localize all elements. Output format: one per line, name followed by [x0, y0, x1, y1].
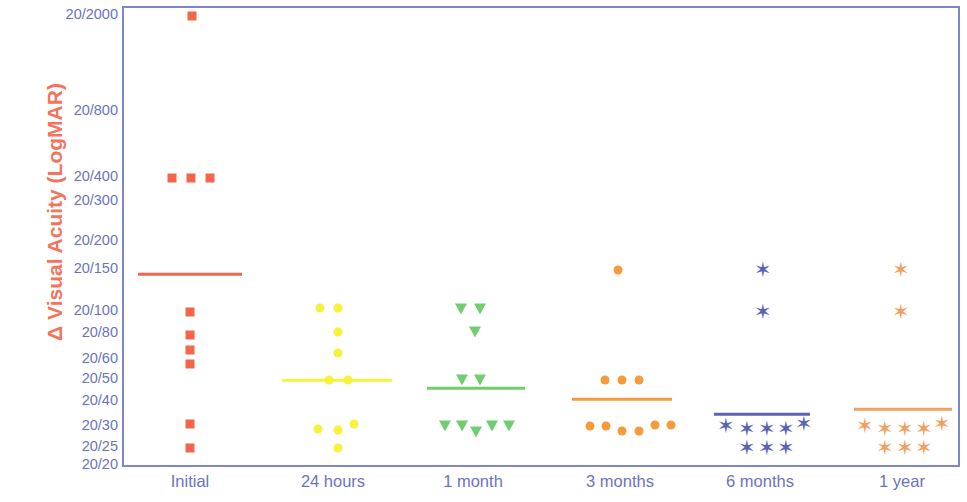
data-point: [455, 304, 467, 315]
x-axis-tick-labels: Initial24 hours1 month3 months6 months1 …: [122, 472, 960, 502]
data-point: ✶: [892, 262, 908, 278]
data-point: [618, 376, 627, 385]
data-point: [635, 376, 644, 385]
data-point: ✶: [795, 416, 811, 432]
data-point: [186, 331, 195, 340]
data-point: [334, 304, 343, 313]
y-axis-tick: 20/20: [36, 457, 118, 472]
data-point: ✶: [738, 421, 754, 437]
x-axis-tick-6-months: 6 months: [726, 472, 794, 491]
x-axis-tick-initial: Initial: [171, 472, 210, 491]
data-point: [486, 421, 498, 432]
median-line-initial: [138, 273, 242, 276]
data-point: [316, 304, 325, 313]
data-point: ✶: [758, 421, 774, 437]
y-axis-tick: 20/2000: [36, 7, 118, 22]
data-point: [350, 420, 359, 429]
median-line-3-months: [572, 398, 672, 401]
data-point: [601, 376, 610, 385]
data-point: ✶: [777, 421, 793, 437]
data-point: [186, 308, 195, 317]
data-point: ✶: [915, 440, 931, 456]
data-point: ✶: [856, 418, 872, 434]
data-point: [186, 360, 195, 369]
data-point: [456, 375, 468, 386]
data-point: ✶: [717, 418, 733, 434]
data-point: [614, 266, 623, 275]
plot-area: ✶✶✶✶✶✶✶✶✶✶✶✶✶✶✶✶✶✶✶✶: [122, 6, 960, 467]
data-point: [314, 425, 323, 434]
y-axis-tick: 20/80: [36, 325, 118, 340]
data-point: ✶: [896, 440, 912, 456]
y-axis-tick: 20/400: [36, 169, 118, 184]
x-axis-tick-24-hours: 24 hours: [301, 472, 365, 491]
x-axis-tick-1-year: 1 year: [879, 472, 925, 491]
data-point: ✶: [892, 304, 908, 320]
data-point: ✶: [896, 421, 912, 437]
data-point: [474, 304, 486, 315]
data-point: [503, 421, 515, 432]
data-point: ✶: [876, 440, 892, 456]
data-point: [602, 422, 611, 431]
data-point: [667, 421, 676, 430]
data-point: [334, 444, 343, 453]
data-point: [206, 174, 215, 183]
y-axis-tick: 20/60: [36, 351, 118, 366]
data-point: ✶: [876, 421, 892, 437]
data-point: [186, 444, 195, 453]
data-point: ✶: [754, 304, 770, 320]
data-point: ✶: [758, 440, 774, 456]
y-axis-tick: 20/300: [36, 193, 118, 208]
data-point: [188, 12, 197, 21]
data-point: [186, 346, 195, 355]
y-axis-tick: 20/100: [36, 303, 118, 318]
data-point: [586, 422, 595, 431]
data-point: [456, 421, 468, 432]
data-point: [469, 327, 481, 338]
data-point: [635, 427, 644, 436]
data-point: ✶: [738, 440, 754, 456]
median-line-6-months: [714, 413, 810, 416]
x-axis-tick-3-months: 3 months: [586, 472, 654, 491]
y-axis-tick: 20/800: [36, 103, 118, 118]
data-point: [187, 174, 196, 183]
data-point: [470, 427, 482, 438]
data-point: [186, 420, 195, 429]
data-point: [334, 349, 343, 358]
y-axis-tick: 20/30: [36, 418, 118, 433]
y-axis-tick: 20/40: [36, 393, 118, 408]
data-point: [334, 426, 343, 435]
data-point: ✶: [915, 421, 931, 437]
median-line-1-year: [854, 408, 952, 411]
scatter-plot-chart: Δ Visual Acuity (LogMAR) 20/200020/80020…: [0, 0, 967, 502]
median-line-24-hours: [282, 379, 392, 382]
y-axis-tick: 20/150: [36, 261, 118, 276]
data-point: [334, 328, 343, 337]
x-axis-tick-1-month: 1 month: [443, 472, 503, 491]
data-point: ✶: [754, 262, 770, 278]
data-point: [651, 421, 660, 430]
data-point: ✶: [777, 440, 793, 456]
y-axis-tick: 20/50: [36, 371, 118, 386]
data-point: [439, 421, 451, 432]
data-point: [168, 174, 177, 183]
data-point: ✶: [933, 416, 949, 432]
y-axis-tick: 20/200: [36, 233, 118, 248]
median-line-1-month: [427, 387, 525, 390]
y-axis-tick-labels: 20/200020/80020/40020/30020/20020/15020/…: [36, 0, 118, 502]
data-point: [618, 427, 627, 436]
y-axis-tick: 20/25: [36, 439, 118, 454]
data-point: [474, 375, 486, 386]
